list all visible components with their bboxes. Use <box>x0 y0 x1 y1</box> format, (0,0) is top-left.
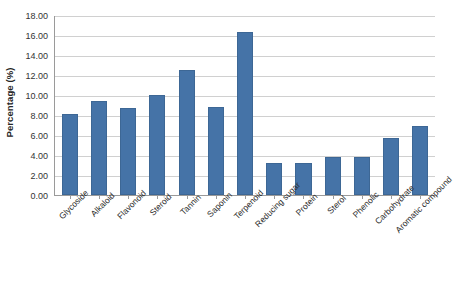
y-axis-tick-label: 12.00 <box>25 71 48 81</box>
x-axis-tick-label: Sterol <box>325 193 348 216</box>
y-axis-title: Percentage (%) <box>0 0 18 205</box>
y-axis-title-label: Percentage (%) <box>4 67 15 137</box>
bar[interactable] <box>91 101 107 195</box>
x-axis-label-slot: Phenolic <box>347 199 376 291</box>
bar[interactable] <box>266 163 282 195</box>
bar-slot <box>201 16 230 195</box>
bar[interactable] <box>383 138 399 195</box>
y-axis-tick-labels: 18.0016.0014.0012.0010.008.006.004.002.0… <box>18 16 51 196</box>
plot-area <box>54 16 435 196</box>
y-axis-tick-label: 10.00 <box>25 91 48 101</box>
y-axis-tick-label: 6.00 <box>30 131 48 141</box>
y-axis-tick-label: 18.00 <box>25 11 48 21</box>
x-axis-label-slot: Glycoside <box>55 199 84 291</box>
bar[interactable] <box>325 157 341 195</box>
y-axis-tick-label: 14.00 <box>25 51 48 61</box>
x-axis-tick-labels: GlycosideAlkaloidFlavonoidSteroidTanninS… <box>55 199 435 291</box>
x-axis-label-slot: Tannin <box>172 199 201 291</box>
bar[interactable] <box>412 126 428 195</box>
y-axis-tick-label: 0.00 <box>30 191 48 201</box>
bar-slot <box>377 16 406 195</box>
bar-slot <box>318 16 347 195</box>
x-axis-label-slot: Flavonoid <box>113 199 142 291</box>
y-axis-tick-label: 2.00 <box>30 171 48 181</box>
bar[interactable] <box>149 95 165 195</box>
x-axis-label-slot: Reducing sugar <box>260 199 289 291</box>
bars-group <box>55 16 435 195</box>
bar-slot <box>84 16 113 195</box>
bar[interactable] <box>120 108 136 195</box>
x-axis-label-slot: Alkaloid <box>84 199 113 291</box>
x-axis-label-slot: Terpenoid <box>230 199 259 291</box>
bar-slot <box>113 16 142 195</box>
y-axis-tick-label: 8.00 <box>30 111 48 121</box>
x-axis-label-slot: Carbohydrate <box>377 199 406 291</box>
bar[interactable] <box>208 107 224 195</box>
bar-slot <box>289 16 318 195</box>
bar-slot <box>230 16 259 195</box>
bar-slot <box>406 16 435 195</box>
bar-slot <box>143 16 172 195</box>
bar[interactable] <box>354 157 370 195</box>
bar[interactable] <box>237 32 253 195</box>
bar-slot <box>55 16 84 195</box>
bar-slot <box>347 16 376 195</box>
y-axis-tick-label: 4.00 <box>30 151 48 161</box>
x-axis-label-slot: Steroid <box>143 199 172 291</box>
bar[interactable] <box>62 114 78 195</box>
x-axis-label-slot: Aromatic compound <box>406 199 435 291</box>
bar[interactable] <box>179 70 195 195</box>
x-axis-label-slot: Protein <box>289 199 318 291</box>
bar-slot <box>260 16 289 195</box>
bar-slot <box>172 16 201 195</box>
x-axis-label-slot: Sterol <box>318 199 347 291</box>
x-axis-label-slot: Saponin <box>201 199 230 291</box>
y-axis-tick-label: 16.00 <box>25 31 48 41</box>
